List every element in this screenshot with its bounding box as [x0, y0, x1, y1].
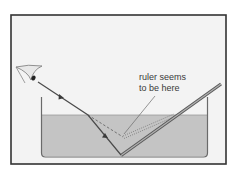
water-body — [42, 115, 208, 156]
annotation-line-1: ruler seems — [139, 72, 186, 82]
refraction-diagram — [0, 0, 240, 175]
annotation-line-2: to be here — [139, 83, 180, 93]
